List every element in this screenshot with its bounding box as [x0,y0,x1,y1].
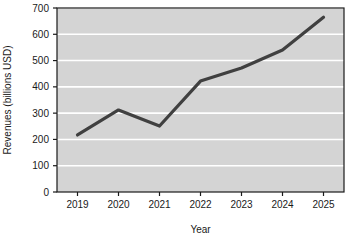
y-axis-tick-label: 500 [32,55,49,66]
y-axis-tick-label: 400 [32,81,49,92]
y-axis-tick-label: 700 [32,3,49,14]
chart-canvas: 0100200300400500600700 20192020202120222… [0,0,355,240]
x-axis-title: Year [190,224,211,235]
y-axis-tick-label: 0 [43,187,49,198]
y-axis-title: Revenues (billions USD) [2,46,13,155]
x-axis-tick-label: 2025 [312,199,335,210]
y-axis-tick-label: 100 [32,160,49,171]
line-chart: 0100200300400500600700 20192020202120222… [0,0,355,240]
x-axis-tick-label: 2024 [271,199,294,210]
x-axis-tick-label: 2023 [230,199,253,210]
y-axis-tick-label: 600 [32,29,49,40]
x-axis-tick-label: 2020 [107,199,130,210]
y-axis-tick-label: 300 [32,108,49,119]
x-axis-tick-label: 2022 [189,199,212,210]
y-axis-tick-label: 200 [32,134,49,145]
x-axis-tick-label: 2021 [148,199,171,210]
x-axis-tick-label: 2019 [66,199,89,210]
